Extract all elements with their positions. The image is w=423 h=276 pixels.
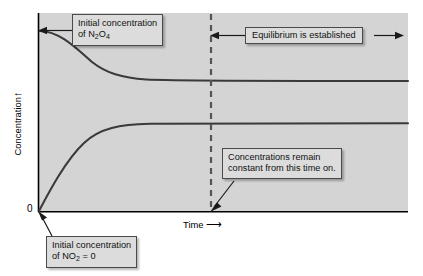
x-axis-label: Time ⟶ bbox=[183, 218, 221, 231]
y-axis-label-text: Concentration bbox=[12, 97, 23, 155]
x-axis-label-text: Time bbox=[183, 219, 203, 230]
callout-n2o4-mid: O bbox=[99, 29, 106, 39]
callout-n2o4-prefix: of N bbox=[78, 29, 95, 39]
callout-n2o4-line2: of N2O4 bbox=[78, 29, 157, 42]
equilibrium-concentration-figure: Concentration↑ Time ⟶ 0 Initial concentr… bbox=[0, 0, 423, 276]
callout-n2o4-line1: Initial concentration bbox=[78, 18, 157, 29]
callout-constant-line1: Concentrations remain bbox=[228, 152, 336, 163]
callout-concentrations-constant: Concentrations remain constant from this… bbox=[222, 148, 342, 179]
callout-constant-line2: constant from this time on. bbox=[228, 163, 336, 174]
callout-equilibrium-established: Equilibrium is established bbox=[245, 27, 363, 44]
callout-no2-line1: Initial concentration bbox=[52, 240, 131, 251]
callout-no2-prefix: of NO bbox=[52, 251, 76, 261]
callout-initial-concentration-no2: Initial concentration of NO2 = 0 bbox=[46, 236, 137, 268]
callout-no2-line2: of NO2 = 0 bbox=[52, 251, 131, 264]
leader-arrow-no2 bbox=[38, 211, 52, 236]
y-axis-arrow-glyph: ↑ bbox=[11, 93, 23, 98]
callout-equilibrium-label: Equilibrium is established bbox=[252, 30, 356, 41]
callout-initial-concentration-n2o4: Initial concentration of N2O4 bbox=[72, 14, 163, 46]
callout-n2o4-sub2: 4 bbox=[106, 33, 110, 40]
y-axis-label: Concentration↑ bbox=[11, 84, 23, 164]
x-axis-arrow-glyph: ⟶ bbox=[206, 218, 221, 230]
origin-label: 0 bbox=[27, 203, 33, 214]
callout-no2-suffix: = 0 bbox=[80, 251, 96, 261]
